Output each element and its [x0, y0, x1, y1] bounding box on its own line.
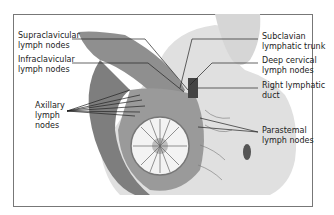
label-supraclavicular-nodes: Supraclavicular lymph nodes: [18, 31, 80, 51]
label-axillary-nodes: Axillary lymph nodes: [35, 101, 65, 131]
label-infraclavicular-nodes: Infraclavicular lymph nodes: [18, 55, 75, 75]
label-parasternal-nodes: Parastemal lymph nodes: [262, 126, 314, 146]
label-right-lymphatic-duct: Right lymphatic duct: [262, 81, 325, 101]
label-deep-cervical-nodes: Deep cervical lymph nodes: [262, 56, 317, 76]
right-lymphatic-duct: [188, 78, 198, 98]
nipple: [243, 144, 251, 160]
label-subclavian-trunk: Subclavian lymphatic trunk: [262, 32, 325, 52]
